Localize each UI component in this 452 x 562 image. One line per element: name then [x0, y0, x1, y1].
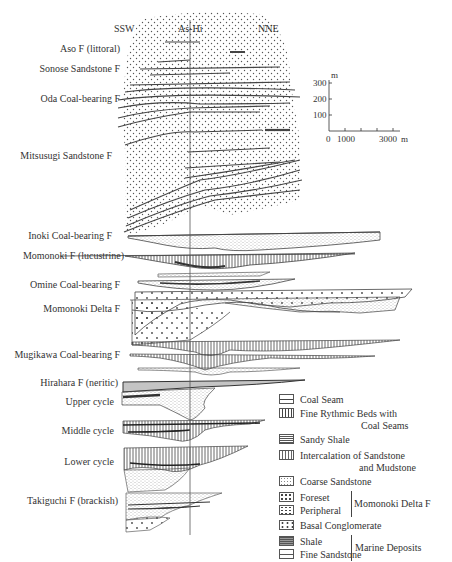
formation-label-inoki: Inoki Coal-bearing F	[28, 230, 112, 241]
coal-seam-swatch-icon	[279, 394, 294, 404]
scale-tick-1000: 1000	[337, 134, 355, 144]
formation-label-takiguchi: Takiguchi F (brackish)	[27, 495, 118, 506]
legend-item-fine-rhythmic: Fine Rythmic Beds with	[279, 407, 397, 419]
foreset-swatch-icon	[279, 492, 294, 502]
formation-label-upper-cycle: Upper cycle	[65, 396, 114, 407]
scale-tick-300: 300	[313, 78, 327, 88]
marine-group-brace	[351, 535, 352, 561]
fine-sandstone-swatch-icon	[279, 549, 294, 559]
shale-swatch-icon	[279, 536, 294, 546]
sandy-shale-swatch-icon	[279, 434, 294, 444]
scale-tick-3000: 3000	[379, 134, 397, 144]
legend-item-basal-conglomerate: Basal Conglomerate	[279, 519, 381, 531]
legend-item-foreset: Foreset	[279, 491, 329, 503]
scale-tick-0: 0	[326, 134, 331, 144]
direction-nne: NNE	[258, 23, 279, 34]
formation-label-hirahara: Hirahara F (neritic)	[40, 377, 118, 388]
intercalation-swatch-icon	[279, 450, 294, 460]
formation-label-aso: Aso F (littoral)	[60, 43, 120, 54]
legend-fine-rhythmic-cont: Coal Seams	[361, 420, 409, 431]
legend-item-shale: Shale	[279, 535, 322, 547]
formation-label-omine: Omine Coal-bearing F	[30, 279, 120, 290]
formation-label-mugikawa: Mugikawa Coal-bearing F	[14, 349, 120, 360]
legend-item-intercalation: Intercalation of Sandstone	[279, 449, 405, 461]
basal-conglomerate-swatch-icon	[279, 520, 294, 530]
formation-label-middle-cycle: Middle cycle	[62, 425, 114, 436]
well-label: As-Hi	[178, 23, 202, 34]
coarse-sandstone-swatch-icon	[279, 476, 294, 486]
legend-item-coarse-sandstone: Coarse Sandstone	[279, 475, 371, 487]
legend-group-delta: Momonoki Delta F	[354, 498, 431, 509]
formation-label-oda: Oda Coal-bearing F	[41, 93, 120, 104]
legend-item-peripheral: Peripheral	[279, 504, 341, 516]
peripheral-swatch-icon	[279, 505, 294, 515]
delta-group-brace	[351, 491, 352, 517]
scale-horizontal-unit: m	[401, 134, 408, 144]
scale-bar-axes	[329, 80, 400, 131]
formation-label-mitsusugi: Mitsusugi Sandstone F	[20, 150, 112, 161]
formation-label-lower-cycle: Lower cycle	[64, 456, 114, 467]
legend-item-sandy-shale: Sandy Shale	[279, 433, 350, 445]
formation-label-sonose: Sonose Sandstone F	[39, 63, 120, 74]
legend-intercalation-cont: and Mudstone	[359, 462, 416, 473]
fine-rhythmic-swatch-icon	[279, 408, 294, 418]
direction-ssw: SSW	[114, 23, 135, 34]
legend-group-marine: Marine Deposits	[355, 542, 421, 553]
legend-item-coal-seam: Coal Seam	[279, 393, 344, 405]
scale-tick-100: 100	[313, 110, 327, 120]
formation-label-momonoki-delta: Momonoki Delta F	[43, 303, 120, 314]
legend-item-fine-sandstone: Fine Sandstone	[279, 548, 361, 560]
scale-tick-200: 200	[313, 94, 327, 104]
formation-label-momonoki-lucustrine: Momonoki F (lucustrine)	[23, 250, 124, 261]
scale-vertical-unit: m	[331, 70, 338, 80]
